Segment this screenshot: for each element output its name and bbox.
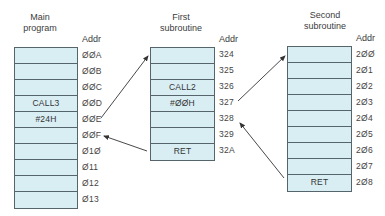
call-arrow-first-to-second [238, 56, 285, 101]
flow-arrows [0, 0, 385, 216]
call-arrow-main-to-first [101, 56, 148, 118]
return-arrow-second-to-first [240, 123, 284, 178]
return-arrow-first-to-main [104, 136, 147, 151]
